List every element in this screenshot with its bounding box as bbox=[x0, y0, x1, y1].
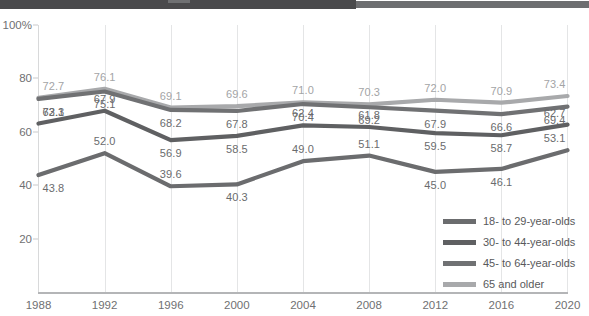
legend-item-label: 65 and older bbox=[483, 278, 544, 290]
y-axis-tick-label: 60 bbox=[0, 126, 32, 138]
cropped-header-bar bbox=[0, 0, 589, 9]
x-axis-tick-label: 1992 bbox=[92, 299, 118, 311]
chart-legend: 18- to 29-year-olds30- to 44-year-olds45… bbox=[443, 212, 583, 296]
x-axis-tick-label: 2020 bbox=[555, 299, 581, 311]
line-chart: 100%80604020 198819921996200020042008201… bbox=[0, 9, 589, 316]
x-axis-tick-label: 1996 bbox=[158, 299, 184, 311]
data-point-value-label: 59.5 bbox=[424, 140, 446, 152]
data-point-value-label: 40.3 bbox=[226, 191, 248, 203]
x-axis-tick-label: 2008 bbox=[356, 299, 382, 311]
data-point-value-label: 39.6 bbox=[160, 168, 182, 180]
data-point-value-label: 69.1 bbox=[160, 90, 182, 102]
legend-color-swatch bbox=[443, 219, 476, 224]
data-point-value-label: 72.3 bbox=[43, 106, 65, 118]
data-point-value-label: 69.6 bbox=[226, 88, 248, 100]
data-point-value-label: 45.0 bbox=[424, 179, 446, 191]
data-point-value-label: 72.0 bbox=[424, 82, 446, 94]
x-axis-tick-label: 2004 bbox=[290, 299, 316, 311]
data-point-value-label: 69.2 bbox=[358, 114, 380, 126]
data-point-value-label: 58.7 bbox=[490, 142, 512, 154]
x-axis-tick-label: 2016 bbox=[489, 299, 515, 311]
legend-color-swatch bbox=[443, 240, 476, 245]
legend-item-label: 30- to 44-year-olds bbox=[483, 236, 575, 248]
data-point-value-label: 70.3 bbox=[358, 86, 380, 98]
legend-color-swatch bbox=[443, 261, 476, 266]
data-point-value-label: 53.1 bbox=[544, 132, 566, 144]
y-axis-tick-label: 80 bbox=[0, 72, 32, 84]
legend-item-label: 18- to 29-year-olds bbox=[483, 215, 575, 227]
data-point-value-label: 67.8 bbox=[226, 118, 248, 130]
data-point-value-label: 56.9 bbox=[160, 147, 182, 159]
data-point-value-label: 52.0 bbox=[94, 135, 116, 147]
data-point-value-label: 70.9 bbox=[490, 85, 512, 97]
x-axis-tick-label: 2012 bbox=[422, 299, 448, 311]
data-point-value-label: 49.0 bbox=[292, 143, 314, 155]
data-point-value-label: 71.0 bbox=[292, 84, 314, 96]
data-point-value-label: 51.1 bbox=[358, 138, 380, 150]
header-bar-notch bbox=[168, 0, 190, 3]
header-bar-light-segment bbox=[356, 1, 589, 8]
data-point-value-label: 72.7 bbox=[43, 80, 65, 92]
data-point-value-label: 76.1 bbox=[94, 71, 116, 83]
data-point-value-label: 73.4 bbox=[544, 78, 566, 90]
data-point-value-label: 67.9 bbox=[424, 118, 446, 130]
data-point-value-label: 68.2 bbox=[160, 117, 182, 129]
data-point-value-label: 75.1 bbox=[94, 98, 116, 110]
data-point-value-label: 66.6 bbox=[490, 121, 512, 133]
legend-item[interactable]: 65 and older bbox=[443, 275, 583, 293]
y-axis-tick-label: 40 bbox=[0, 179, 32, 191]
x-axis-tick-label: 1988 bbox=[26, 299, 52, 311]
series-line bbox=[39, 150, 568, 186]
legend-item[interactable]: 45- to 64-year-olds bbox=[443, 254, 583, 272]
legend-item[interactable]: 18- to 29-year-olds bbox=[443, 212, 583, 230]
legend-color-swatch bbox=[443, 282, 476, 287]
data-point-value-label: 69.4 bbox=[544, 114, 566, 126]
legend-item-label: 45- to 64-year-olds bbox=[483, 257, 575, 269]
x-axis-tick-label: 2000 bbox=[224, 299, 250, 311]
legend-item[interactable]: 30- to 44-year-olds bbox=[443, 233, 583, 251]
y-axis-tick-label: 20 bbox=[0, 233, 32, 245]
y-axis-tick-label: 100% bbox=[0, 19, 32, 31]
data-point-value-label: 58.5 bbox=[226, 143, 248, 155]
data-point-value-label: 70.4 bbox=[292, 111, 314, 123]
data-point-value-label: 43.8 bbox=[43, 182, 65, 194]
data-point-value-label: 46.1 bbox=[490, 176, 512, 188]
